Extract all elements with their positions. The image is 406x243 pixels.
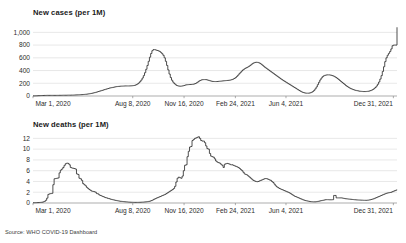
- y-axis-tick-label: 800: [19, 41, 30, 48]
- chart-plot-new-cases: 02004006008001,000Mar 1, 2020Aug 8, 2020…: [0, 0, 406, 115]
- y-axis-tick-label: 8: [26, 156, 30, 163]
- y-axis-tick-label: 600: [19, 54, 30, 61]
- x-axis-tick-label: Nov 16, 2020: [164, 100, 204, 107]
- y-axis-tick-label: 12: [23, 135, 31, 142]
- y-axis-tick-label: 6: [26, 167, 30, 174]
- y-axis-tick-label: 10: [23, 145, 31, 152]
- chart-panel-new-cases: New cases (per 1M) 02004006008001,000Mar…: [0, 0, 406, 115]
- x-axis-tick-label: Jun 4, 2021: [269, 207, 304, 214]
- x-axis-tick-label: Feb 24, 2021: [216, 207, 255, 214]
- chart-panel-new-deaths: New deaths (per 1M) 024681012Mar 1, 2020…: [0, 118, 406, 223]
- x-axis-tick-label: Dec 31, 2021: [354, 100, 394, 107]
- data-series-line: [33, 27, 397, 96]
- y-axis-tick-label: 0: [26, 199, 30, 206]
- y-axis-tick-label: 1,000: [13, 29, 30, 36]
- x-axis-tick-label: Aug 8, 2020: [115, 100, 151, 108]
- y-axis-tick-label: 400: [19, 67, 30, 74]
- x-axis-tick-label: Dec 31, 2021: [354, 207, 394, 214]
- x-axis-tick-label: Nov 16, 2020: [164, 207, 204, 214]
- x-axis-tick-label: Jun 4, 2021: [269, 100, 304, 107]
- y-axis-tick-label: 0: [26, 92, 30, 99]
- data-series-line: [33, 137, 397, 203]
- x-axis-tick-label: Aug 8, 2020: [115, 207, 151, 215]
- covid-trends-figure: New cases (per 1M) 02004006008001,000Mar…: [0, 0, 406, 243]
- y-axis-tick-label: 200: [19, 80, 30, 87]
- x-axis-tick-label: Mar 1, 2020: [35, 100, 71, 107]
- chart-plot-new-deaths: 024681012Mar 1, 2020Aug 8, 2020Nov 16, 2…: [0, 118, 406, 223]
- y-axis-tick-label: 4: [26, 178, 30, 185]
- y-axis-tick-label: 2: [26, 189, 30, 196]
- x-axis-tick-label: Feb 24, 2021: [216, 100, 255, 107]
- source-note: Source: WHO COVID-19 Dashboard: [5, 229, 97, 235]
- x-axis-tick-label: Mar 1, 2020: [35, 207, 71, 214]
